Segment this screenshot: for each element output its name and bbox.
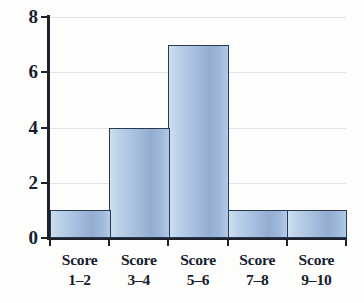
x-tick-mark xyxy=(108,238,110,246)
bar xyxy=(228,210,289,238)
x-tick-mark xyxy=(345,238,347,246)
plot-area xyxy=(50,17,346,238)
x-tick-label: Score7–8 xyxy=(228,250,287,300)
x-tick-label: Score1–2 xyxy=(50,250,109,300)
x-tick-label: Score5–6 xyxy=(168,250,227,300)
y-tick-label: 6 xyxy=(2,62,38,81)
x-tick-label-line2: 3–4 xyxy=(109,270,168,290)
x-tick-label-line2: 5–6 xyxy=(168,270,227,290)
y-tick-mark xyxy=(41,71,49,73)
x-tick-label-line2: 1–2 xyxy=(50,270,109,290)
x-tick-label: Score3–4 xyxy=(109,250,168,300)
y-tick-label: 2 xyxy=(2,173,38,192)
y-tick-mark xyxy=(41,127,49,129)
x-tick-mark xyxy=(227,238,229,246)
histogram-chart: 02468 Score1–2Score3–4Score5–6Score7–8Sc… xyxy=(0,0,364,303)
bar xyxy=(168,45,229,238)
x-tick-label-line1: Score xyxy=(168,250,227,270)
x-tick-label-line2: 7–8 xyxy=(228,270,287,290)
x-tick-label: Score9–10 xyxy=(287,250,346,300)
y-tick-mark xyxy=(41,182,49,184)
y-tick-mark xyxy=(41,16,49,18)
y-tick-mark xyxy=(41,237,49,239)
x-axis-labels: Score1–2Score3–4Score5–6Score7–8Score9–1… xyxy=(50,250,346,300)
x-tick-label-line1: Score xyxy=(50,250,109,270)
x-tick-label-line1: Score xyxy=(287,250,346,270)
gridline xyxy=(50,17,346,18)
y-tick-label: 0 xyxy=(2,228,38,247)
x-tick-label-line2: 9–10 xyxy=(287,270,346,290)
bar xyxy=(50,210,111,238)
y-tick-label: 8 xyxy=(2,7,38,26)
x-tick-label-line1: Score xyxy=(109,250,168,270)
x-tick-label-line1: Score xyxy=(228,250,287,270)
bar xyxy=(109,128,170,239)
x-tick-mark xyxy=(49,238,51,246)
bar xyxy=(287,210,348,238)
x-tick-mark xyxy=(286,238,288,246)
x-tick-mark xyxy=(167,238,169,246)
y-tick-label: 4 xyxy=(2,118,38,137)
